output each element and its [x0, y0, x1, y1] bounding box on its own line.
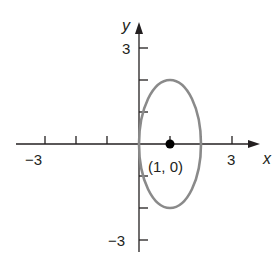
- coordinate-plot: y x −3 3 3 −3 (1, 0): [0, 0, 279, 265]
- x-axis-arrow-icon: [248, 140, 260, 148]
- y-tick-label-neg3: −3: [108, 232, 125, 249]
- y-tick-label-3: 3: [122, 40, 130, 57]
- center-point: [166, 140, 175, 149]
- center-point-label: (1, 0): [148, 158, 183, 175]
- y-axis-arrow-icon: [135, 22, 143, 34]
- y-axis-label: y: [121, 17, 131, 34]
- x-tick-label-3: 3: [227, 151, 235, 168]
- x-axis-label: x: [262, 150, 272, 167]
- x-tick-label-neg3: −3: [25, 151, 42, 168]
